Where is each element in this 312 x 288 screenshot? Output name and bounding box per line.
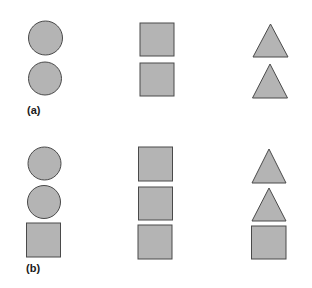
figure: (a) (b) [0,0,312,288]
square-shape [138,225,172,259]
square-shape [27,223,61,257]
triangle-shape [253,64,288,98]
circle-shape [28,186,61,219]
circle-shape [29,21,63,55]
square-shape [140,63,174,96]
panel-b-column-circles-plus-square [27,147,62,257]
panel-a-column-triangles [253,24,289,98]
panel-b [27,147,287,259]
panel-a-column-squares [140,23,174,96]
circle-shape [28,147,61,180]
square-shape [139,147,173,181]
triangle-shape [253,24,288,57]
panel-a-label: (a) [27,104,40,116]
square-shape [252,226,287,259]
panel-a [29,21,289,98]
shapes-diagram [0,0,312,288]
square-shape [139,187,173,220]
panel-b-label: (b) [26,262,40,274]
square-shape [140,23,174,56]
triangle-shape [252,149,286,183]
circle-shape [29,62,62,95]
triangle-shape [252,188,286,221]
panel-b-column-triangles-plus-square [252,149,287,259]
panel-a-column-circles [29,21,63,95]
panel-b-column-squares [138,147,173,259]
